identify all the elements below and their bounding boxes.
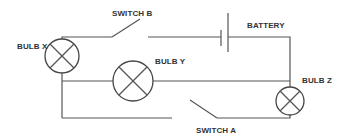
- bulb-z: [276, 87, 304, 115]
- circuit-diagram: SWITCH B BATTERY BULB X BULB Y BULB Z SW…: [0, 0, 344, 138]
- battery-label: BATTERY: [247, 21, 285, 30]
- bulb-y-label: BULB Y: [155, 57, 186, 66]
- bulb-x: [45, 39, 79, 73]
- bulb-y: [113, 61, 153, 101]
- switch-a-label: SWITCH A: [196, 126, 236, 135]
- switch-b-label: SWITCH B: [112, 9, 152, 18]
- bulb-x-label: BULB X: [17, 42, 48, 51]
- wire-bottom-right: [217, 115, 290, 118]
- bulb-z-label: BULB Z: [302, 76, 332, 85]
- switch-a: [190, 100, 217, 118]
- battery-symbol: [221, 13, 228, 52]
- wire-top-left: [62, 37, 112, 39]
- switch-b: [112, 19, 140, 37]
- wire-top-right: [228, 37, 290, 87]
